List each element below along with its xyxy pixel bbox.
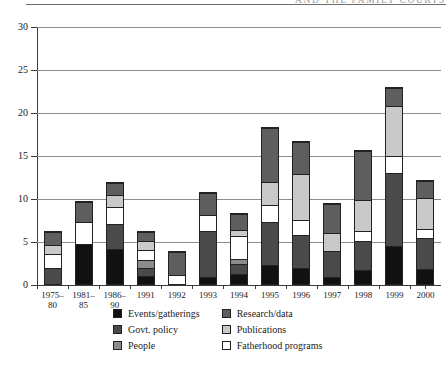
x-tick-3: [130, 285, 131, 289]
bar-segment-fatherhood-programs: [169, 275, 185, 284]
bar-segment-people: [138, 260, 154, 268]
bar-1994: [230, 213, 248, 285]
legend-label: Publications: [237, 324, 286, 335]
bar-segment-events-gatherings: [262, 265, 278, 284]
bar-segment-events-gatherings: [386, 246, 402, 284]
plot-area: 051015202530: [37, 27, 441, 285]
legend-column-1: Research/dataPublicationsFatherhood prog…: [222, 306, 323, 352]
bar-1992: [168, 251, 186, 285]
x-axis-line: [37, 285, 441, 286]
legend-label: Fatherhood programs: [237, 340, 323, 351]
x-tick-last: [425, 285, 426, 289]
bar-segment-research-data: [386, 88, 402, 106]
bar-segment-research-data: [169, 252, 185, 276]
bar-segment-research-data: [293, 142, 309, 174]
legend-item-publications: Publications: [222, 322, 323, 336]
bar-segment-events-gatherings: [231, 274, 247, 284]
legend-item-govt-policy: Govt. policy: [113, 322, 200, 336]
y-tick-label-0: 0: [23, 280, 28, 290]
bar-1996: [292, 141, 310, 285]
bar-1991: [137, 231, 155, 285]
bar-segment-events-gatherings: [417, 269, 433, 284]
bar-segment-research-data: [138, 232, 154, 241]
bar-segment-fatherhood-programs: [138, 250, 154, 260]
bar-segment-research-data: [417, 181, 433, 198]
bar-1997: [323, 203, 341, 285]
bar-segment-events-gatherings: [293, 268, 309, 284]
figure-stacked-bar-chart: AND THE FAMILY COURTS 051015202530 1975–…: [0, 0, 448, 367]
x-tick-8: [286, 285, 287, 289]
y-tick-label-15: 15: [18, 151, 28, 161]
bar-segment-publications: [355, 200, 371, 231]
legend-label: Research/data: [237, 308, 293, 319]
legend-item-fatherhood-programs: Fatherhood programs: [222, 338, 323, 352]
legend-label: Govt. policy: [128, 324, 178, 335]
legend-swatch-icon: [113, 325, 122, 334]
legend-swatch-icon: [113, 309, 122, 318]
legend-label: People: [128, 340, 155, 351]
x-tick-9: [317, 285, 318, 289]
bar-1999: [385, 87, 403, 285]
legend-column-0: Events/gatheringsGovt. policyPeople: [113, 306, 200, 352]
bar-segment-publications: [107, 195, 123, 207]
y-tick-label-10: 10: [18, 194, 28, 204]
bar-segment-events-gatherings: [355, 270, 371, 284]
bar-segment-events-gatherings: [76, 244, 92, 284]
bar-segment-research-data: [355, 151, 371, 200]
y-tick-label-20: 20: [18, 108, 28, 118]
bar-2000: [416, 180, 434, 285]
bar-segment-govt-policy: [200, 231, 216, 277]
bar-segment-govt-policy: [45, 268, 61, 284]
bar-segment-research-data: [45, 232, 61, 245]
x-tick-0: [37, 285, 38, 289]
bar-segment-publications: [45, 245, 61, 254]
bar-1981–85: [75, 201, 93, 285]
x-tick-4: [161, 285, 162, 289]
bar-group: [37, 27, 441, 285]
x-tick-2: [99, 285, 100, 289]
bar-segment-fatherhood-programs: [293, 220, 309, 234]
x-tick-5: [192, 285, 193, 289]
legend-item-people: People: [113, 338, 200, 352]
legend-label: Events/gatherings: [128, 308, 200, 319]
bar-segment-govt-policy: [293, 235, 309, 269]
bar-segment-govt-policy: [262, 222, 278, 265]
legend-item-events-gatherings: Events/gatherings: [113, 306, 200, 320]
y-tick-label-25: 25: [18, 65, 28, 75]
bar-segment-publications: [293, 174, 309, 221]
bar-segment-events-gatherings: [200, 277, 216, 284]
bar-segment-fatherhood-programs: [231, 236, 247, 259]
bar-segment-fatherhood-programs: [200, 215, 216, 230]
x-tick-12: [410, 285, 411, 289]
bar-1993: [199, 192, 217, 285]
bar-segment-govt-policy: [355, 241, 371, 270]
bar-segment-events-gatherings: [107, 249, 123, 284]
bar-segment-govt-policy: [324, 251, 340, 278]
bar-segment-research-data: [231, 214, 247, 230]
bar-segment-govt-policy: [386, 173, 402, 245]
bar-segment-publications: [138, 241, 154, 250]
bar-1975–80: [44, 231, 62, 285]
legend-swatch-icon: [113, 341, 122, 350]
bar-segment-fatherhood-programs: [76, 222, 92, 244]
bar-segment-fatherhood-programs: [386, 156, 402, 174]
legend-swatch-icon: [222, 341, 231, 350]
x-tick-1: [68, 285, 69, 289]
bar-1998: [354, 150, 372, 285]
chart-legend: Events/gatheringsGovt. policyPeopleResea…: [113, 306, 322, 352]
x-tick-6: [223, 285, 224, 289]
bar-segment-fatherhood-programs: [417, 229, 433, 238]
bar-1986–90: [106, 182, 124, 285]
bar-segment-research-data: [324, 204, 340, 233]
bar-segment-fatherhood-programs: [355, 231, 371, 241]
bar-segment-publications: [386, 106, 402, 156]
bar-segment-research-data: [107, 183, 123, 195]
x-tick-11: [379, 285, 380, 289]
bar-segment-research-data: [262, 128, 278, 182]
bar-segment-govt-policy: [107, 224, 123, 249]
y-tick-label-30: 30: [18, 22, 28, 32]
bar-segment-research-data: [200, 193, 216, 215]
bar-segment-govt-policy: [138, 268, 154, 276]
bar-segment-fatherhood-programs: [107, 207, 123, 224]
x-tick-label-12: 2000: [403, 290, 447, 300]
